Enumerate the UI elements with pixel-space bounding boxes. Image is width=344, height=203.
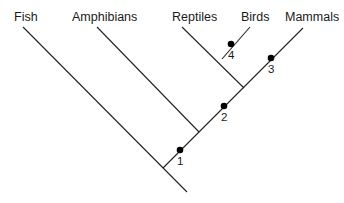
cladogram: FishAmphibiansReptilesBirdsMammals 1234 (0, 0, 344, 203)
fish-branch (23, 27, 187, 192)
node-dot-3 (268, 55, 275, 62)
node-dot-1 (177, 147, 184, 154)
node-markers (177, 41, 275, 154)
taxon-birds: Birds (241, 10, 269, 24)
taxon-labels: FishAmphibiansReptilesBirdsMammals (14, 10, 339, 24)
branches (23, 27, 303, 192)
node-label-1: 1 (177, 155, 183, 167)
node-label-2: 2 (221, 111, 227, 123)
birds-branch (222, 27, 250, 59)
taxon-mammals: Mammals (285, 10, 339, 24)
node-dot-4 (228, 41, 235, 48)
node-dot-2 (221, 103, 228, 110)
taxon-amphibians: Amphibians (72, 10, 137, 24)
node-label-3: 3 (268, 63, 274, 75)
node-label-4: 4 (228, 49, 235, 61)
taxon-fish: Fish (14, 10, 38, 24)
reptiles-branch (182, 27, 244, 88)
taxon-reptiles: Reptiles (172, 10, 217, 24)
